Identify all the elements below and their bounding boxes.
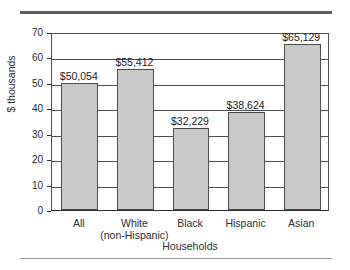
bar-value-label: $38,624 <box>218 100 274 111</box>
bar-value-label: $55,412 <box>107 57 163 68</box>
top-rule <box>20 11 332 14</box>
bar <box>228 112 265 210</box>
x-tick-label: Asian <box>259 217 343 229</box>
bar <box>117 69 154 210</box>
bar <box>173 128 210 210</box>
bar-value-label: $32,229 <box>162 116 218 127</box>
x-axis-title: Households <box>51 240 329 252</box>
y-tick-label: 50 <box>9 79 43 89</box>
y-tick-label: 40 <box>9 104 43 114</box>
bottom-rule <box>20 258 332 259</box>
bar-value-label: $50,054 <box>51 71 107 82</box>
y-tick-label: 10 <box>9 181 43 191</box>
bar-value-label: $65,129 <box>273 32 329 43</box>
y-tick-label: 0 <box>9 206 43 216</box>
bar <box>61 83 98 210</box>
y-tick-label: 70 <box>9 28 43 38</box>
y-tick-label: 60 <box>9 53 43 63</box>
y-tick-label: 20 <box>9 155 43 165</box>
figure: $ thousands 010203040506070 $50,054$55,4… <box>0 0 350 270</box>
x-tick-label-line1: Asian <box>259 217 343 229</box>
y-tick-label: 30 <box>9 130 43 140</box>
bar <box>284 44 321 210</box>
y-tick-mark <box>47 211 51 212</box>
